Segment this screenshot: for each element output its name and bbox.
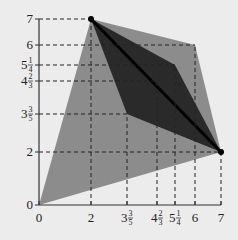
tick-label: 423 [21, 72, 33, 90]
svg-text:2: 2 [27, 144, 34, 159]
tick-label: 6 [192, 210, 199, 225]
svg-text:1: 1 [177, 209, 181, 218]
svg-text:2: 2 [88, 210, 95, 225]
svg-text:4: 4 [177, 218, 181, 227]
svg-text:2: 2 [159, 209, 163, 218]
svg-text:0: 0 [27, 197, 34, 212]
tick-label: 2 [88, 210, 95, 225]
svg-text:4: 4 [21, 73, 28, 88]
svg-text:3: 3 [21, 106, 28, 121]
tick-label: 423 [151, 209, 163, 227]
svg-text:3: 3 [29, 81, 33, 90]
svg-text:6: 6 [27, 37, 34, 52]
feasible-region-diagram: 0233542351467 0233542351467 [0, 0, 238, 240]
regions [39, 19, 221, 205]
tick-label: 514 [21, 56, 33, 74]
svg-text:3: 3 [29, 105, 33, 114]
svg-text:5: 5 [129, 218, 133, 227]
svg-text:7: 7 [218, 210, 225, 225]
tick-label: 7 [218, 210, 225, 225]
tick-label: 335 [121, 209, 133, 227]
tick-label: 514 [169, 209, 181, 227]
svg-text:3: 3 [121, 210, 128, 225]
tick-label: 7 [27, 11, 34, 26]
y-tick-labels: 0233542351467 [21, 11, 39, 212]
point-7-2 [218, 149, 224, 155]
svg-text:5: 5 [21, 57, 28, 72]
svg-text:6: 6 [192, 210, 199, 225]
svg-text:5: 5 [29, 114, 33, 123]
tick-label: 0 [36, 210, 43, 225]
tick-label: 2 [27, 144, 34, 159]
point-2-7 [88, 16, 94, 22]
svg-text:7: 7 [27, 11, 34, 26]
svg-text:0: 0 [36, 210, 43, 225]
tick-label: 335 [21, 105, 33, 123]
svg-text:3: 3 [159, 218, 163, 227]
svg-text:1: 1 [29, 56, 33, 65]
tick-label: 0 [27, 197, 34, 212]
svg-text:3: 3 [129, 209, 133, 218]
tick-label: 6 [27, 37, 34, 52]
svg-text:4: 4 [29, 65, 33, 74]
svg-text:5: 5 [169, 210, 176, 225]
svg-text:4: 4 [151, 210, 158, 225]
